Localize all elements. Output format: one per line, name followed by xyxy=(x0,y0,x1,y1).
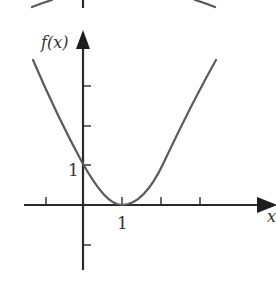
y-tick-label-1: 1 xyxy=(68,160,79,180)
y-axis: 1 f(x) xyxy=(40,30,91,270)
fragment-curve-left xyxy=(32,0,52,7)
x-axis: 1 x xyxy=(24,197,276,233)
fragment-curve-right xyxy=(195,0,215,7)
y-axis-label: f(x) xyxy=(40,33,68,52)
previous-figure-fragment xyxy=(32,0,215,8)
x-axis-label: x xyxy=(267,207,276,226)
y-axis-arrow-icon xyxy=(76,30,90,49)
x-tick-label-1: 1 xyxy=(117,213,128,233)
parabola-curve xyxy=(33,60,216,205)
function-graph: 1 f(x) 1 x xyxy=(0,0,276,284)
